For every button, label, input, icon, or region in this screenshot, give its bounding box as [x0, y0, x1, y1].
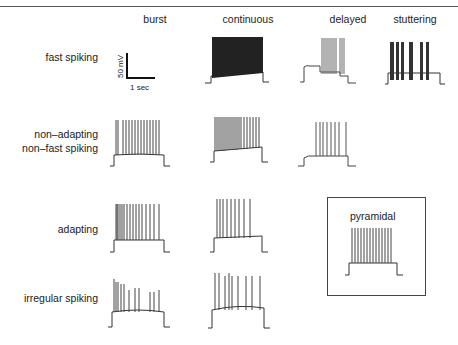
top-rule: [0, 6, 458, 7]
scale-bar-icon: [125, 51, 155, 81]
row-label-irregular: irregular spiking: [0, 291, 98, 305]
scale-horizontal-label: 1 sec: [130, 83, 149, 92]
trace-pyramidal: [345, 225, 405, 280]
trace-fs-delayed: [300, 36, 362, 88]
trace-nanfs-burst: [110, 117, 170, 169]
trace-irregular-continuous: [208, 270, 270, 332]
trace-adapting-continuous: [210, 196, 270, 256]
column-header-continuous: continuous: [203, 13, 293, 25]
pyramidal-label: pyramidal: [350, 210, 396, 222]
trace-irregular-burst: [108, 276, 173, 331]
trace-nanfs-continuous: [210, 115, 270, 167]
trace-fs-continuous: [205, 36, 270, 86]
trace-adapting-burst: [110, 200, 172, 255]
row-label-fast-spiking: fast spiking: [0, 50, 98, 64]
trace-nanfs-delayed: [298, 120, 360, 170]
column-header-stuttering: stuttering: [370, 13, 458, 25]
scale-vertical-label: 50 mV: [116, 55, 125, 78]
column-header-burst: burst: [110, 13, 200, 25]
trace-fs-stuttering: [385, 40, 445, 88]
row-label-adapting: adapting: [0, 222, 98, 236]
row-label-non-adapting: non–adaptingnon–fast spiking: [0, 127, 98, 155]
